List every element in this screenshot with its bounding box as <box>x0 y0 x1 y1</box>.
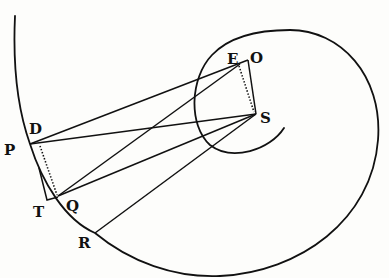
diagram-figure: D P T Q R E O S <box>0 0 389 278</box>
label-P: P <box>4 141 15 159</box>
label-D: D <box>29 120 42 138</box>
label-Q: Q <box>66 197 79 215</box>
label-E: E <box>227 50 238 68</box>
label-R: R <box>78 234 91 252</box>
spiral-orbit-curve <box>14 16 378 276</box>
label-O: O <box>250 49 263 67</box>
line-Q-S <box>58 114 256 196</box>
label-T: T <box>33 203 45 221</box>
label-S: S <box>260 109 271 127</box>
spiral-diagram-svg: D P T Q R E O S <box>0 0 389 278</box>
line-Q-E <box>58 64 240 196</box>
